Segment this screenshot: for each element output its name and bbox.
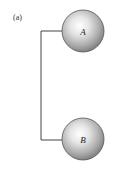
- panel-label: (a): [13, 13, 22, 22]
- sphere-a: A: [62, 10, 104, 52]
- sphere-a-label: A: [79, 27, 86, 37]
- diagram: (a) A B: [0, 0, 123, 171]
- sphere-b: B: [62, 118, 104, 160]
- connecting-wire: [41, 31, 62, 140]
- sphere-b-label: B: [80, 135, 86, 145]
